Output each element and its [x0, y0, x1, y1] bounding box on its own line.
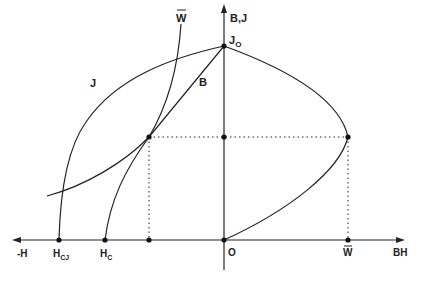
label-hcj: HCJ	[53, 248, 69, 261]
label-vertical-axis: B,J	[230, 12, 247, 24]
points	[56, 43, 350, 242]
label-bh: BH	[393, 247, 407, 258]
w-bar-curve	[105, 24, 181, 240]
point-axis-mid	[221, 134, 226, 139]
point-j0	[221, 43, 226, 48]
bh-curve	[224, 46, 348, 240]
label-j0: JO	[229, 34, 241, 49]
label-w-bar-curve: W	[176, 10, 187, 24]
svg-text:W: W	[343, 247, 353, 258]
point-origin	[221, 237, 226, 242]
left-axis-arrow-icon	[12, 237, 21, 243]
label-j-curve: J	[90, 77, 96, 89]
label-origin: O	[228, 247, 236, 258]
point-hc	[102, 237, 107, 242]
label-b-curve: B	[199, 76, 207, 88]
label-hc: HC	[100, 248, 112, 261]
b-curve	[47, 46, 224, 196]
diagram-canvas: B,J JO J B W -H HCJ HC O W BH	[0, 0, 423, 282]
point-hcj	[56, 237, 61, 242]
label-w-bar-axis: W	[343, 246, 353, 258]
guide-lines	[149, 137, 348, 240]
right-axis-arrow-icon	[396, 237, 405, 243]
vertical-axis-arrow-icon	[221, 4, 227, 13]
point-h-operating	[146, 237, 151, 242]
point-bh-max	[345, 134, 350, 139]
point-operating	[146, 134, 151, 139]
point-w-bar-axis	[345, 237, 350, 242]
label-negative-h: -H	[17, 248, 28, 259]
svg-text:W: W	[176, 12, 187, 24]
